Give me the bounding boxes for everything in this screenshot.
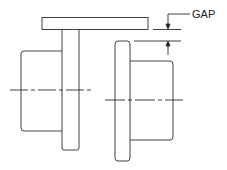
right-flange (115, 41, 130, 161)
gap-leader (168, 14, 190, 28)
arrow-up-icon (166, 41, 170, 46)
diagram-canvas (0, 0, 227, 170)
left-hub (21, 51, 62, 131)
gap-label: GAP (192, 9, 215, 20)
coupling-gap-diagram: GAP (0, 0, 227, 170)
straightedge (42, 18, 148, 30)
right-hub (130, 61, 173, 140)
arrow-down-icon (166, 24, 170, 29)
